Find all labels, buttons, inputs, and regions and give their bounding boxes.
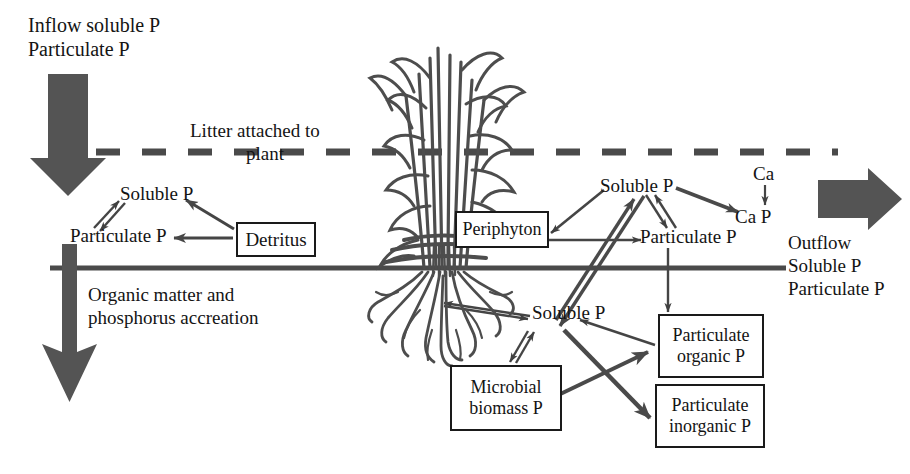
water-particulate-p-label: Particulate P: [640, 226, 737, 248]
particulate-inorganic-p-label-line2: inorganic P: [669, 416, 751, 437]
calcium-label: Ca: [753, 163, 774, 185]
inflow-label-line2: Particulate P: [28, 38, 130, 61]
particulate-organic-p-box: Particulate organic P: [658, 314, 764, 378]
outflow-label-line2: Soluble P: [788, 255, 861, 277]
outflow-label-line1: Outflow: [788, 232, 851, 254]
litter-label-line1: Litter attached to: [190, 120, 320, 142]
microbial-biomass-label-line1: Microbial: [471, 377, 542, 398]
inflow-arrow: [30, 74, 106, 196]
particulate-inorganic-p-label-line1: Particulate: [672, 395, 749, 416]
detritus-label: Detritus: [245, 229, 306, 251]
water-soluble-p-label: Soluble P: [600, 175, 673, 197]
inflow-label-line1: Inflow soluble P: [28, 14, 160, 37]
calcium-phosphate-label: Ca P: [735, 206, 771, 228]
litter-label-line2: plant: [246, 143, 284, 165]
microbial-biomass-box: Microbial biomass P: [450, 365, 562, 431]
particulate-organic-p-label-line1: Particulate: [673, 325, 750, 346]
emergent-plant-illustration: [369, 48, 524, 366]
accretion-label-line1: Organic matter and: [88, 284, 234, 306]
left-particulate-p-label: Particulate P: [70, 225, 167, 247]
microbial-biomass-label-line2: biomass P: [469, 398, 543, 419]
diagram-canvas: Inflow soluble P Particulate P Litter at…: [0, 0, 910, 474]
left-soluble-p-label: Soluble P: [120, 183, 193, 205]
periphyton-box: Periphyton: [455, 211, 549, 248]
particulate-inorganic-p-box: Particulate inorganic P: [655, 384, 765, 448]
particulate-organic-p-label-line2: organic P: [677, 346, 745, 367]
outflow-arrow: [818, 168, 902, 230]
detritus-box: Detritus: [236, 222, 316, 257]
outflow-label-line3: Particulate P: [788, 278, 885, 300]
periphyton-label: Periphyton: [463, 219, 542, 240]
soil-soluble-p-label: Soluble P: [532, 302, 605, 324]
accretion-label-line2: phosphorus accreation: [88, 307, 258, 329]
water-column-arrows: [646, 185, 765, 312]
